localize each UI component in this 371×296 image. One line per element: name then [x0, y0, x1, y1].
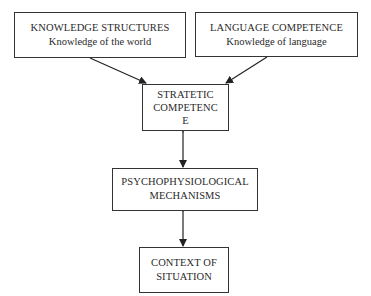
node-line: CONTEXT OF: [151, 256, 217, 270]
node-line: MECHANISMS: [149, 189, 220, 203]
node-knowledge-structures: KNOWLEDGE STRUCTURES Knowledge of the wo…: [14, 12, 186, 58]
node-psychophysiological-mechanisms: PSYCHOPHYSIOLOGICAL MECHANISMS: [112, 168, 258, 211]
node-line: COMPETENC: [153, 101, 218, 114]
node-line: SITUATION: [156, 270, 212, 284]
node-subtitle: Knowledge of the world: [49, 35, 151, 49]
node-line: E: [182, 114, 189, 127]
node-title: KNOWLEDGE STRUCTURES: [31, 21, 170, 35]
node-title: LANGUAGE COMPETENCE: [210, 21, 343, 35]
node-context-of-situation: CONTEXT OF SITUATION: [139, 247, 229, 293]
node-language-competence: LANGUAGE COMPETENCE Knowledge of languag…: [195, 12, 358, 57]
node-line: PSYCHOPHYSIOLOGICAL: [121, 175, 248, 189]
node-subtitle: Knowledge of language: [226, 35, 326, 49]
arrow-knowledge-to-strategic: [90, 58, 146, 83]
node-strategic-competence: STRATETIC COMPETENC E: [142, 84, 229, 131]
node-line: STRATETIC: [157, 88, 213, 101]
arrow-language-to-strategic: [226, 57, 267, 83]
